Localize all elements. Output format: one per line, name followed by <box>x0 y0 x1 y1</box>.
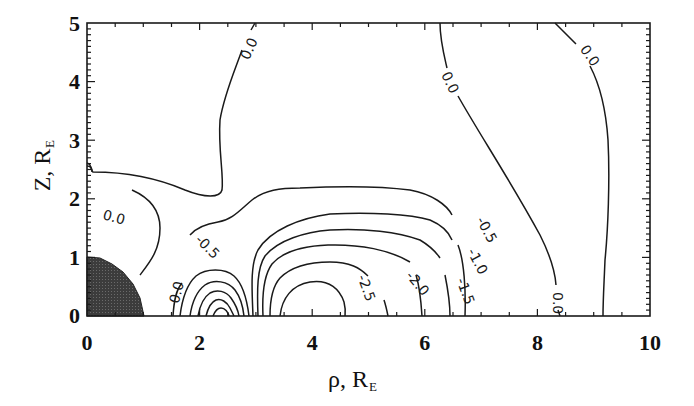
x-tick-label: 6 <box>419 330 430 355</box>
x-tick-labels: 0 2 4 6 8 10 <box>82 330 662 355</box>
x-tick-label: 2 <box>194 330 205 355</box>
contour-label: 0.0 <box>166 279 187 305</box>
contour-label: -0.5 <box>473 214 500 246</box>
contour-label: -2.0 <box>403 268 433 299</box>
svg-text:E: E <box>369 379 377 394</box>
contour-label: 0.0 <box>550 292 566 314</box>
earth-region <box>87 257 144 316</box>
y-tick-label: 5 <box>69 11 80 36</box>
contour-label: 0.0 <box>101 206 127 227</box>
contour-lines <box>87 23 609 316</box>
y-tick-label: 4 <box>69 69 80 94</box>
contour-labels: 0.0 0.0 0.0 0.0 0.0 0.0 -0.5 -0.5 -1.0 -… <box>101 35 603 314</box>
x-tick-label: 10 <box>639 330 661 355</box>
y-tick-label: 3 <box>69 128 80 153</box>
contour-label: 0.0 <box>438 69 462 96</box>
contour-label: 0.0 <box>577 42 603 69</box>
y-ticks <box>87 29 650 310</box>
contour-label: -0.5 <box>192 231 223 262</box>
x-tick-label: 8 <box>532 330 543 355</box>
svg-text:ρ, R: ρ, R <box>328 366 368 392</box>
y-tick-label: 0 <box>69 303 80 328</box>
contour-label: -2.5 <box>354 272 378 303</box>
y-tick-labels: 0 1 2 3 4 5 <box>69 11 80 328</box>
contour-label: -1.0 <box>464 245 491 277</box>
y-tick-label: 1 <box>69 245 80 270</box>
y-axis-label: Z, R E <box>29 140 57 191</box>
contour-label: 0.0 <box>237 35 261 62</box>
contour-label: -1.5 <box>454 276 478 307</box>
svg-text:E: E <box>42 140 57 148</box>
x-axis-label: ρ, R E <box>328 366 377 394</box>
contour-chart: 0.0 0.0 0.0 0.0 0.0 0.0 -0.5 -0.5 -1.0 -… <box>0 0 694 406</box>
y-tick-label: 2 <box>69 186 80 211</box>
x-tick-label: 4 <box>307 330 318 355</box>
svg-text:Z, R: Z, R <box>29 149 55 192</box>
x-tick-label: 0 <box>82 330 93 355</box>
